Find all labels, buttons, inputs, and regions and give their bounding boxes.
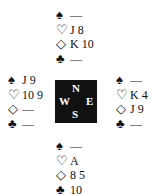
spade-icon: ♠ (56, 139, 70, 154)
compass-south: S (72, 108, 78, 120)
compass-east: E (86, 95, 93, 107)
west-diamonds: ◇— (8, 102, 43, 117)
south-hearts: ♡A (56, 154, 85, 169)
west-clubs: ♣— (8, 117, 43, 132)
compass-north: N (72, 82, 80, 94)
compass-west: W (59, 95, 70, 107)
east-hearts: ♡K 4 (116, 88, 148, 103)
south-spades: ♠— (56, 139, 85, 154)
spade-icon: ♠ (116, 73, 130, 88)
cards: K 10 (70, 37, 94, 51)
south-clubs: ♣10 (56, 183, 85, 195)
diamond-icon: ◇ (116, 102, 130, 117)
club-icon: ♣ (8, 117, 22, 132)
cards: J 8 (70, 23, 84, 37)
diamond-icon: ◇ (8, 102, 22, 117)
north-clubs: ♣— (56, 52, 94, 67)
cards: — (130, 117, 142, 131)
heart-icon: ♡ (56, 23, 70, 38)
cards: — (130, 73, 142, 87)
club-icon: ♣ (56, 183, 70, 195)
cards: K 4 (130, 88, 148, 102)
north-spades: ♠— (56, 8, 94, 23)
spade-icon: ♠ (8, 73, 22, 88)
south-diamonds: ◇8 5 (56, 168, 85, 183)
diamond-icon: ◇ (56, 168, 70, 183)
compass-box: N W E S (55, 80, 97, 123)
west-spades: ♠J 9 (8, 73, 43, 88)
north-hearts: ♡J 8 (56, 23, 94, 38)
east-diamonds: ◇J 9 (116, 102, 148, 117)
heart-icon: ♡ (116, 88, 130, 103)
heart-icon: ♡ (8, 88, 22, 103)
east-clubs: ♣— (116, 117, 148, 132)
spade-icon: ♠ (56, 8, 70, 23)
south-hand: ♠— ♡A ◇8 5 ♣10 (56, 139, 85, 194)
cards: — (70, 8, 82, 22)
club-icon: ♣ (56, 52, 70, 67)
cards: A (70, 154, 79, 168)
cards: J 9 (22, 73, 36, 87)
cards: — (70, 52, 82, 66)
cards: 10 (70, 183, 82, 195)
north-diamonds: ◇K 10 (56, 37, 94, 52)
west-hand: ♠J 9 ♡10 9 ◇— ♣— (8, 73, 43, 131)
club-icon: ♣ (116, 117, 130, 132)
east-spades: ♠— (116, 73, 148, 88)
east-hand: ♠— ♡K 4 ◇J 9 ♣— (116, 73, 148, 131)
west-hearts: ♡10 9 (8, 88, 43, 103)
cards: 8 5 (70, 168, 85, 182)
diamond-icon: ◇ (56, 37, 70, 52)
north-hand: ♠— ♡J 8 ◇K 10 ♣— (56, 8, 94, 66)
cards: 10 9 (22, 88, 43, 102)
cards: J 9 (130, 102, 144, 116)
cards: — (70, 139, 82, 153)
cards: — (22, 117, 34, 131)
cards: — (22, 102, 34, 116)
heart-icon: ♡ (56, 154, 70, 169)
